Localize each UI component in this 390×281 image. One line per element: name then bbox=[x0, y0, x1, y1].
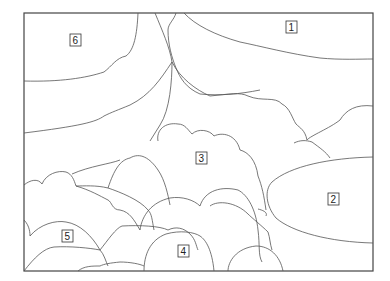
cloud-mid-3 bbox=[258, 209, 266, 216]
label-3: 3 bbox=[196, 152, 207, 164]
cloud-mid-1 bbox=[140, 189, 262, 262]
region-5-right bbox=[100, 226, 168, 250]
label-6: 6 bbox=[70, 34, 81, 46]
region-2-top-small bbox=[294, 141, 330, 158]
bottom-cloud-right bbox=[228, 246, 283, 271]
label-3-text: 3 bbox=[199, 153, 205, 164]
region-1-boundary bbox=[172, 62, 373, 140]
cloud-left-1 bbox=[24, 156, 170, 205]
label-2: 2 bbox=[328, 193, 339, 205]
region-6-boundary bbox=[24, 13, 138, 81]
label-5: 5 bbox=[62, 230, 73, 242]
label-1-text: 1 bbox=[289, 22, 295, 33]
label-6-text: 6 bbox=[73, 35, 79, 46]
divider-line-c bbox=[184, 13, 373, 59]
region-6-lower-boundary bbox=[24, 62, 172, 133]
label-4-text: 4 bbox=[181, 246, 187, 257]
cloud-right-mid bbox=[210, 203, 272, 250]
segmentation-diagram: 1 2 3 4 5 6 bbox=[0, 0, 390, 281]
diagram-frame bbox=[24, 13, 373, 271]
region-5-lower bbox=[24, 247, 108, 271]
region-2-boundary bbox=[267, 157, 373, 243]
bottom-cloud-left bbox=[78, 262, 144, 271]
region-3-boundary bbox=[158, 124, 266, 210]
divider-line-b bbox=[168, 13, 260, 95]
label-4: 4 bbox=[178, 245, 189, 257]
divider-line-a bbox=[150, 13, 172, 141]
cloud-left-3 bbox=[76, 186, 140, 230]
label-1: 1 bbox=[286, 21, 297, 33]
label-5-text: 5 bbox=[65, 231, 71, 242]
cloud-left-4 bbox=[108, 188, 154, 230]
label-2-text: 2 bbox=[331, 194, 337, 205]
cloud-left-2 bbox=[72, 160, 120, 174]
